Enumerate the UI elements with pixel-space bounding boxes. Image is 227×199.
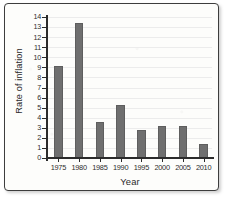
y-axis-tick-label: 5 <box>29 104 41 111</box>
bar <box>137 130 146 158</box>
bar <box>199 144 208 158</box>
chart-paper-frame: 01234567891011121314 1975198019851990199… <box>4 3 219 191</box>
y-axis-tick-label: 14 <box>29 13 41 20</box>
x-axis-title: Year <box>46 176 214 187</box>
y-axis-tick-label: 7 <box>29 84 41 91</box>
chart-screenshot: 01234567891011121314 1975198019851990199… <box>0 0 227 199</box>
x-axis-line <box>46 157 214 159</box>
x-axis-tick-label: 1980 <box>71 164 86 171</box>
y-axis-tick-label: 6 <box>29 94 41 101</box>
y-axis-tick-label: 12 <box>29 34 41 41</box>
y-axis-title: Rate of inflation <box>14 35 24 127</box>
x-axis-tick-label: 1995 <box>134 164 149 171</box>
y-axis-tick-label: 0 <box>29 154 41 161</box>
x-axis-tick-label: 2005 <box>175 164 190 171</box>
x-axis-tick <box>141 158 142 162</box>
y-axis-tick-label: 10 <box>29 54 41 61</box>
y-axis-tick-label: 13 <box>29 23 41 30</box>
x-axis-tick-label: 1975 <box>51 164 66 171</box>
y-axis-tick-label: 8 <box>29 74 41 81</box>
y-axis-tick-label: 9 <box>29 64 41 71</box>
bar <box>75 23 84 158</box>
x-axis-tick-label: 1985 <box>92 164 107 171</box>
x-axis-tick-label: 2010 <box>196 164 211 171</box>
x-axis-tick <box>162 158 163 162</box>
y-axis-tick-label: 4 <box>29 114 41 121</box>
x-axis-tick <box>183 158 184 162</box>
bar-series <box>46 17 214 158</box>
bar-chart: 01234567891011121314 1975198019851990199… <box>5 4 220 192</box>
bar <box>116 105 125 158</box>
bar <box>54 66 63 158</box>
x-axis-tick-label: 2000 <box>154 164 169 171</box>
x-axis-tick <box>204 158 205 162</box>
y-axis-tick-labels: 01234567891011121314 <box>25 4 41 192</box>
y-axis-tick-label: 1 <box>29 144 41 151</box>
bar <box>179 126 188 158</box>
bar <box>96 122 105 158</box>
x-axis-tick-label: 1990 <box>113 164 128 171</box>
x-axis-tick <box>100 158 101 162</box>
x-axis-tick <box>79 158 80 162</box>
x-axis-tick <box>121 158 122 162</box>
y-axis-tick-label: 3 <box>29 124 41 131</box>
bar <box>158 126 167 158</box>
y-axis-tick-label: 11 <box>29 44 41 51</box>
x-axis-tick <box>58 158 59 162</box>
y-axis-tick-label: 2 <box>29 134 41 141</box>
